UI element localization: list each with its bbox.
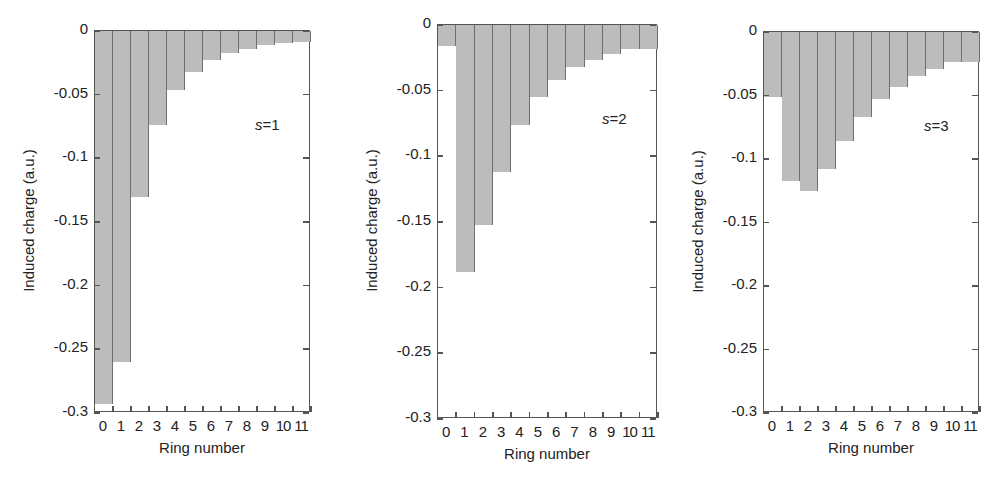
bar-ring-7 <box>221 31 239 53</box>
bar-ring-6 <box>872 32 890 99</box>
x-tick-label: 8 <box>907 418 925 434</box>
y-tick-label: -0.3 <box>28 403 88 419</box>
y-tick-label: -0.3 <box>697 403 757 419</box>
x-tick-label: 6 <box>202 418 220 434</box>
annotation-variable: s <box>602 110 610 127</box>
y-tick-mark <box>650 155 656 157</box>
bar-ring-8 <box>908 32 926 76</box>
x-tick-mark <box>310 406 312 412</box>
bar-ring-7 <box>566 25 584 67</box>
bar-ring-2 <box>131 31 149 197</box>
x-tick-mark <box>256 406 258 412</box>
x-tick-mark <box>202 406 204 412</box>
x-tick-mark <box>925 406 927 412</box>
bar-ring-9 <box>926 32 944 69</box>
x-tick-label: 0 <box>437 424 455 440</box>
bar-ring-3 <box>818 32 836 169</box>
x-tick-label: 5 <box>853 418 871 434</box>
y-tick-label: -0.15 <box>697 213 757 229</box>
x-tick-label: 3 <box>148 418 166 434</box>
bar-ring-2 <box>475 25 493 225</box>
bar-ring-2 <box>800 32 818 191</box>
y-tick-mark <box>763 95 769 97</box>
x-tick-label: 4 <box>166 418 184 434</box>
bar-ring-11 <box>640 25 658 49</box>
y-axis-label: Induced charge (a.u.) <box>363 121 380 321</box>
y-tick-mark <box>303 221 309 223</box>
bar-ring-4 <box>167 31 185 90</box>
x-tick-mark <box>853 406 855 412</box>
y-tick-mark <box>437 418 443 420</box>
y-tick-mark <box>437 24 443 26</box>
bar-ring-6 <box>548 25 566 80</box>
y-tick-label: -0.1 <box>28 148 88 164</box>
x-tick-label: 8 <box>238 418 256 434</box>
x-tick-label: 9 <box>256 418 274 434</box>
y-tick-mark <box>650 90 656 92</box>
x-tick-mark <box>817 406 819 412</box>
x-tick-mark <box>620 412 622 418</box>
x-tick-label: 9 <box>925 418 943 434</box>
bar-ring-1 <box>782 32 800 181</box>
x-tick-label: 8 <box>584 424 602 440</box>
bar-ring-10 <box>621 25 639 49</box>
x-tick-label: 11 <box>292 418 310 434</box>
x-tick-mark <box>112 406 114 412</box>
x-tick-mark <box>220 406 222 412</box>
x-tick-mark <box>799 406 801 412</box>
x-tick-mark <box>130 406 132 412</box>
y-tick-mark <box>94 348 100 350</box>
y-tick-label: -0.1 <box>371 146 431 162</box>
x-tick-mark <box>871 406 873 412</box>
y-tick-label: 0 <box>28 21 88 37</box>
bar-ring-9 <box>257 31 275 45</box>
bar-ring-11 <box>293 31 311 42</box>
y-tick-mark <box>972 158 978 160</box>
bar-ring-5 <box>185 31 203 72</box>
y-tick-mark <box>437 221 443 223</box>
series-annotation: s=2 <box>602 110 627 127</box>
bar-ring-8 <box>585 25 603 60</box>
x-tick-label: 10 <box>621 424 639 440</box>
x-tick-mark <box>602 412 604 418</box>
x-tick-mark <box>781 406 783 412</box>
y-tick-mark <box>763 349 769 351</box>
x-tick-mark <box>565 412 567 418</box>
y-tick-mark <box>303 30 309 32</box>
y-tick-mark <box>94 94 100 96</box>
y-tick-label: -0.15 <box>28 212 88 228</box>
x-tick-mark <box>166 406 168 412</box>
y-tick-label: -0.05 <box>371 81 431 97</box>
x-tick-mark <box>274 406 276 412</box>
annotation-value: 1 <box>271 116 279 133</box>
annotation-equals: = <box>263 116 272 133</box>
x-tick-label: 4 <box>511 424 529 440</box>
x-tick-label: 0 <box>763 418 781 434</box>
y-tick-mark <box>303 348 309 350</box>
x-tick-label: 11 <box>961 418 979 434</box>
y-tick-mark <box>303 94 309 96</box>
x-tick-label: 7 <box>566 424 584 440</box>
plot-area <box>763 31 979 412</box>
x-tick-label: 1 <box>456 424 474 440</box>
y-tick-label: -0.05 <box>28 85 88 101</box>
y-tick-mark <box>650 24 656 26</box>
y-tick-label: -0.05 <box>697 86 757 102</box>
y-tick-label: -0.2 <box>28 276 88 292</box>
annotation-value: 2 <box>618 110 626 127</box>
y-tick-mark <box>94 157 100 159</box>
bar-ring-3 <box>493 25 511 172</box>
x-tick-mark <box>889 406 891 412</box>
y-tick-mark <box>303 412 309 414</box>
y-tick-mark <box>650 418 656 420</box>
x-tick-label: 2 <box>474 424 492 440</box>
bar-ring-5 <box>854 32 872 117</box>
x-tick-mark <box>943 406 945 412</box>
x-tick-mark <box>657 412 659 418</box>
x-tick-mark <box>979 406 981 412</box>
x-tick-label: 2 <box>799 418 817 434</box>
bar-ring-8 <box>239 31 257 49</box>
y-tick-label: -0.25 <box>371 343 431 359</box>
bar-ring-3 <box>149 31 167 125</box>
bar-ring-9 <box>603 25 621 54</box>
